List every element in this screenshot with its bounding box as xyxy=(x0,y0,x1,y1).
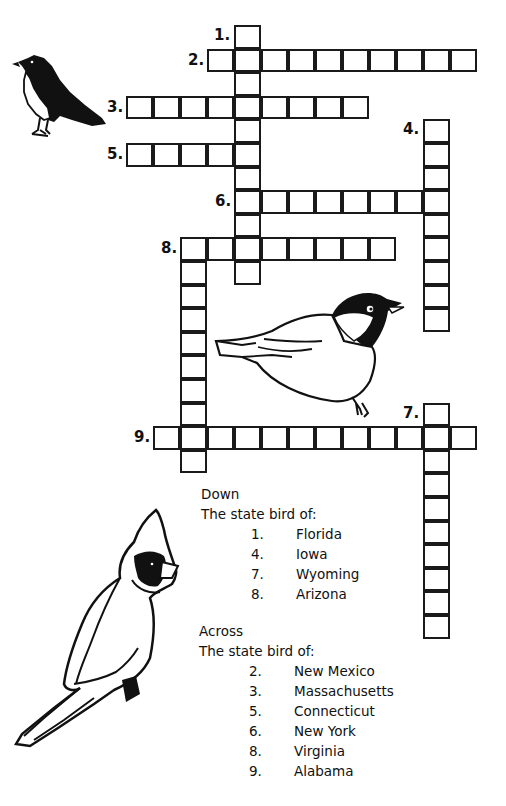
crossword-cell[interactable] xyxy=(180,379,207,403)
crossword-cell[interactable] xyxy=(342,49,369,73)
crossword-cell[interactable] xyxy=(234,214,261,238)
crossword-cell[interactable] xyxy=(234,72,261,96)
crossword-cell[interactable] xyxy=(423,308,450,332)
crossword-cell[interactable] xyxy=(234,426,261,450)
crossword-cell[interactable] xyxy=(207,49,234,73)
crossword-cell[interactable] xyxy=(180,450,207,474)
crossword-cell[interactable] xyxy=(315,49,342,73)
crossword-cell[interactable] xyxy=(180,143,207,167)
clue-number: 1. xyxy=(251,524,264,544)
crossword-cell[interactable] xyxy=(423,521,450,545)
crossword-cell[interactable] xyxy=(342,426,369,450)
clue-item: 7.Wyoming xyxy=(201,564,401,584)
clue-item: 4.Iowa xyxy=(201,544,401,564)
crossword-cell[interactable] xyxy=(207,96,234,120)
crossword-cell[interactable] xyxy=(207,426,234,450)
clue-number: 9. xyxy=(249,761,262,781)
clue-text: Arizona xyxy=(296,584,347,604)
crossword-cell[interactable] xyxy=(288,190,315,214)
crossword-cell[interactable] xyxy=(180,332,207,356)
crossword-cell[interactable] xyxy=(261,190,288,214)
crossword-cell[interactable] xyxy=(396,190,423,214)
crossword-cell[interactable] xyxy=(180,96,207,120)
crossword-cell[interactable] xyxy=(315,190,342,214)
crossword-cell[interactable] xyxy=(423,190,450,214)
crossword-cell[interactable] xyxy=(369,237,396,261)
clue-text: New York xyxy=(294,721,356,741)
crossword-cell[interactable] xyxy=(315,96,342,120)
clue-item: 9.Alabama xyxy=(199,761,399,781)
crossword-cell[interactable] xyxy=(180,237,207,261)
crossword-cell[interactable] xyxy=(180,261,207,285)
crossword-cell[interactable] xyxy=(423,119,450,143)
crossword-cell[interactable] xyxy=(234,167,261,191)
crossword-cell[interactable] xyxy=(153,96,180,120)
crossword-cell[interactable] xyxy=(423,450,450,474)
crossword-cell[interactable] xyxy=(423,426,450,450)
crossword-cell[interactable] xyxy=(153,143,180,167)
crossword-cell[interactable] xyxy=(234,96,261,120)
clue-text: Wyoming xyxy=(296,564,359,584)
crossword-cell[interactable] xyxy=(234,190,261,214)
crossword-cell[interactable] xyxy=(369,426,396,450)
crossword-cell[interactable] xyxy=(234,261,261,285)
across-subheading: The state bird of: xyxy=(199,641,399,661)
crossword-cell[interactable] xyxy=(342,237,369,261)
crossword-cell[interactable] xyxy=(261,96,288,120)
crossword-cell[interactable] xyxy=(234,237,261,261)
crossword-cell[interactable] xyxy=(342,190,369,214)
crossword-cell[interactable] xyxy=(423,49,450,73)
crossword-cell[interactable] xyxy=(396,49,423,73)
clue-number-label: 2. xyxy=(188,53,204,68)
crossword-cell[interactable] xyxy=(369,49,396,73)
crossword-cell[interactable] xyxy=(261,237,288,261)
crossword-cell[interactable] xyxy=(180,285,207,309)
crossword-cell[interactable] xyxy=(423,568,450,592)
crossword-cell[interactable] xyxy=(315,237,342,261)
crossword-cell[interactable] xyxy=(423,615,450,639)
crossword-cell[interactable] xyxy=(126,96,153,120)
crossword-cell[interactable] xyxy=(234,143,261,167)
clue-text: Iowa xyxy=(296,544,328,564)
crossword-cell[interactable] xyxy=(423,544,450,568)
crossword-cell[interactable] xyxy=(234,25,261,49)
crossword-cell[interactable] xyxy=(207,237,234,261)
crossword-cell[interactable] xyxy=(423,473,450,497)
crossword-cell[interactable] xyxy=(153,426,180,450)
crossword-cell[interactable] xyxy=(315,426,342,450)
crossword-cell[interactable] xyxy=(423,403,450,427)
crossword-cell[interactable] xyxy=(396,426,423,450)
crossword-cell[interactable] xyxy=(423,237,450,261)
crossword-cell[interactable] xyxy=(126,143,153,167)
crossword-cell[interactable] xyxy=(288,426,315,450)
crossword-cell[interactable] xyxy=(450,426,477,450)
clue-number-label: 4. xyxy=(403,122,419,137)
crossword-cell[interactable] xyxy=(180,308,207,332)
crossword-cell[interactable] xyxy=(450,49,477,73)
clue-item: 5.Connecticut xyxy=(199,701,399,721)
crossword-cell[interactable] xyxy=(234,119,261,143)
crossword-cell[interactable] xyxy=(342,96,369,120)
clue-number: 4. xyxy=(251,544,264,564)
crossword-cell[interactable] xyxy=(207,143,234,167)
crossword-cell[interactable] xyxy=(423,497,450,521)
clue-number: 3. xyxy=(249,681,262,701)
crossword-cell[interactable] xyxy=(261,426,288,450)
crossword-cell[interactable] xyxy=(288,49,315,73)
crossword-cell[interactable] xyxy=(423,143,450,167)
crossword-cell[interactable] xyxy=(369,190,396,214)
crossword-cell[interactable] xyxy=(288,96,315,120)
crossword-cell[interactable] xyxy=(423,591,450,615)
crossword-cell[interactable] xyxy=(180,355,207,379)
clue-number-label: 6. xyxy=(215,194,231,209)
crossword-cell[interactable] xyxy=(423,167,450,191)
crossword-cell[interactable] xyxy=(423,214,450,238)
crossword-cell[interactable] xyxy=(261,49,288,73)
crossword-cell[interactable] xyxy=(423,261,450,285)
crossword-cell[interactable] xyxy=(180,426,207,450)
crossword-cell[interactable] xyxy=(180,403,207,427)
crossword-cell[interactable] xyxy=(288,237,315,261)
crossword-cell[interactable] xyxy=(234,49,261,73)
crossword-cell[interactable] xyxy=(423,285,450,309)
clue-number: 6. xyxy=(249,721,262,741)
